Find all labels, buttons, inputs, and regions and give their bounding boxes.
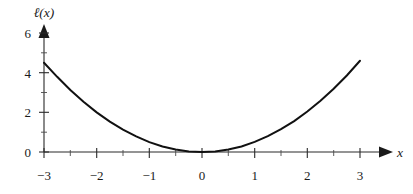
- y-tick-label-6: 6: [25, 26, 32, 41]
- x-axis-arrow-icon: [379, 147, 393, 158]
- x-tick-label-neg1: −1: [142, 168, 156, 183]
- x-tick-label-neg3: −3: [37, 168, 51, 183]
- x-tick-label-3: 3: [357, 168, 364, 183]
- y-axis-arrow-icon: [39, 24, 50, 38]
- x-axis-label: x: [396, 145, 403, 160]
- y-tick-label-4: 4: [25, 66, 32, 81]
- parabola-plot: −3 −2 −1 0 1 2 3 0 2 4 6 ℓ(x) x: [0, 0, 413, 194]
- y-axis-label: ℓ(x): [34, 5, 55, 20]
- y-tick-label-0: 0: [25, 145, 32, 160]
- x-tick-label-2: 2: [304, 168, 311, 183]
- x-tick-label-neg2: −2: [90, 168, 104, 183]
- curve-path: [44, 61, 360, 152]
- chart-figure: −3 −2 −1 0 1 2 3 0 2 4 6 ℓ(x) x: [0, 0, 413, 194]
- y-tick-label-2: 2: [25, 105, 32, 120]
- x-tick-label-1: 1: [251, 168, 258, 183]
- x-tick-label-0: 0: [199, 168, 206, 183]
